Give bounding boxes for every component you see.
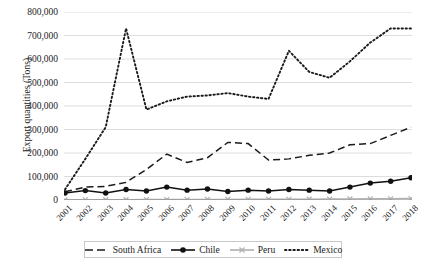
solid-line-circle-icon <box>170 245 196 255</box>
export-quantities-line-chart: Export quantities (Tons) 0100,000200,000… <box>0 0 423 265</box>
data-point <box>164 184 169 189</box>
x-tick-label: 2012 <box>278 203 298 223</box>
x-tick-label: 2014 <box>319 203 339 223</box>
series-south-africa <box>65 127 411 192</box>
y-tick-label: 800,000 <box>27 7 58 17</box>
series-mexico <box>65 28 411 189</box>
series-peru <box>64 196 412 200</box>
x-tick-label: 2010 <box>237 203 257 223</box>
legend-label: Mexico <box>313 245 342 255</box>
chart-canvas <box>64 12 412 200</box>
x-tick-label: 2008 <box>197 203 217 223</box>
data-point <box>368 180 373 185</box>
y-tick-label: 600,000 <box>27 54 58 64</box>
x-tick-label: 2018 <box>400 203 420 223</box>
x-tick-label: 2009 <box>217 203 237 223</box>
data-point <box>103 190 108 195</box>
data-point <box>83 188 88 193</box>
legend-item-chile[interactable]: Chile <box>170 245 220 255</box>
legend-label: Peru <box>258 245 275 255</box>
x-tick-label: 2005 <box>136 203 156 223</box>
legend-item-mexico[interactable]: Mexico <box>284 245 342 255</box>
y-axis-tick-labels: 0100,000200,000300,000400,000500,000600,… <box>0 0 63 210</box>
data-point <box>286 187 291 192</box>
x-tick-label: 2003 <box>95 203 115 223</box>
dotted-line-icon <box>284 245 310 255</box>
y-tick-label: 500,000 <box>27 78 58 88</box>
x-tick-label: 2013 <box>299 203 319 223</box>
plot-area <box>64 12 412 200</box>
x-tick-label: 2016 <box>360 203 380 223</box>
legend-item-south-africa[interactable]: South Africa <box>84 245 161 255</box>
y-tick-label: 700,000 <box>27 31 58 41</box>
series-line <box>65 28 411 189</box>
data-point <box>225 189 230 194</box>
x-tick-label: 2017 <box>380 203 400 223</box>
x-tick-label: 2011 <box>258 203 278 223</box>
legend-label: South Africa <box>113 245 161 255</box>
y-tick-label: 0 <box>53 195 58 205</box>
data-point <box>388 179 393 184</box>
series-layer <box>64 28 412 200</box>
data-point <box>347 184 352 189</box>
data-point <box>144 188 149 193</box>
dashed-line-icon <box>84 245 110 255</box>
x-tick-label: 2007 <box>176 203 196 223</box>
y-tick-label: 400,000 <box>27 101 58 111</box>
legend-label: Chile <box>199 245 220 255</box>
data-point <box>408 175 412 180</box>
x-tick-label: 2002 <box>75 203 95 223</box>
x-tick-label: 2004 <box>115 203 135 223</box>
x-tick-label: 2015 <box>339 203 359 223</box>
data-point <box>266 188 271 193</box>
data-point <box>205 186 210 191</box>
y-tick-label: 200,000 <box>27 148 58 158</box>
data-point <box>245 187 250 192</box>
series-line <box>65 127 411 192</box>
series-chile <box>64 175 412 196</box>
series-line <box>65 178 411 193</box>
legend-item-peru[interactable]: Peru <box>229 245 275 255</box>
y-tick-label: 300,000 <box>27 125 58 135</box>
chart-legend: South AfricaChilePeruMexico <box>84 241 342 258</box>
x-tick-label: 2006 <box>156 203 176 223</box>
gray-line-x-icon <box>229 245 255 255</box>
y-tick-label: 100,000 <box>27 172 58 182</box>
x-axis-tick-labels: 2001200220032004200520062007200820092010… <box>64 203 412 243</box>
data-point <box>327 188 332 193</box>
data-point <box>184 187 189 192</box>
data-point <box>307 187 312 192</box>
data-point <box>123 187 128 192</box>
